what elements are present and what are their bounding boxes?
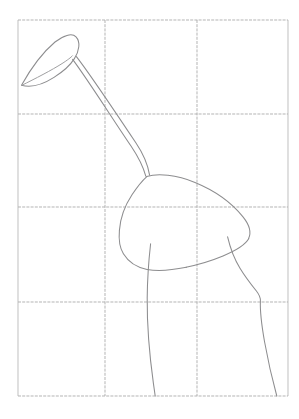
- sketch-canvas: [0, 0, 299, 419]
- paper-background: [0, 0, 299, 419]
- bird-sketch-drawing: [0, 0, 299, 419]
